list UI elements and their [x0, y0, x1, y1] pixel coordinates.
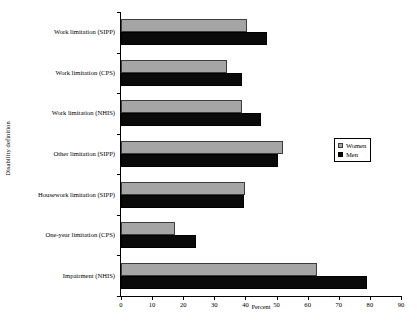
bar-group — [121, 222, 401, 248]
legend-swatch-icon — [338, 143, 343, 148]
bar-men — [121, 154, 278, 167]
category-label: Other limitation (SIPP) — [14, 150, 115, 158]
legend-label: Men — [346, 151, 358, 158]
category-label: Impairment (NHIS) — [14, 272, 115, 280]
bar-group — [121, 263, 401, 289]
legend-label: Women — [346, 142, 366, 149]
y-axis-tick — [117, 93, 121, 94]
legend: WomenMen — [334, 138, 371, 162]
x-axis-tick — [370, 296, 371, 300]
bar-men — [121, 276, 367, 289]
bar-women — [121, 100, 242, 113]
x-axis-tick — [339, 296, 340, 300]
x-axis-title: Percent — [121, 303, 401, 310]
bar-women — [121, 19, 247, 32]
x-axis-tick — [214, 296, 215, 300]
category-label: One-year limitation (CPS) — [14, 231, 115, 239]
x-axis-tick — [308, 296, 309, 300]
y-axis-tick — [117, 53, 121, 54]
bar-group — [121, 100, 401, 126]
y-axis-title-label: Disability definition — [4, 121, 11, 176]
y-axis-title: Disability definition — [0, 0, 14, 296]
bar-men — [121, 73, 242, 86]
x-axis-tick — [152, 296, 153, 300]
legend-item-men[interactable]: Men — [338, 150, 366, 159]
bar-men — [121, 235, 196, 248]
y-axis-tick — [117, 174, 121, 175]
bar-men — [121, 32, 267, 45]
category-axis-labels: Work limitation (SIPP)Work limitation (C… — [14, 12, 118, 296]
bar-group — [121, 182, 401, 208]
legend-item-women[interactable]: Women — [338, 141, 366, 150]
category-label: Housework limitation (SIPP) — [14, 191, 115, 199]
bar-women — [121, 222, 175, 235]
y-axis-tick — [117, 134, 121, 135]
bar-chart: Disability definition Work limitation (S… — [0, 0, 417, 323]
y-axis-tick — [117, 215, 121, 216]
x-axis-tick — [277, 296, 278, 300]
x-axis-tick — [401, 296, 402, 300]
x-axis-line — [120, 296, 401, 297]
category-label: Work limitation (NHIS) — [14, 109, 115, 117]
x-axis-tick — [183, 296, 184, 300]
bar-men — [121, 195, 244, 208]
bar-women — [121, 182, 245, 195]
bar-women — [121, 141, 283, 154]
legend-swatch-icon — [338, 152, 343, 157]
x-axis-tick — [245, 296, 246, 300]
bar-women — [121, 263, 317, 276]
category-label: Work limitation (CPS) — [14, 69, 115, 77]
bar-women — [121, 60, 227, 73]
bar-men — [121, 113, 261, 126]
bar-group — [121, 60, 401, 86]
y-axis-tick — [117, 12, 121, 13]
x-axis-tick — [121, 296, 122, 300]
bar-group — [121, 19, 401, 45]
y-axis-tick — [117, 255, 121, 256]
category-label: Work limitation (SIPP) — [14, 28, 115, 36]
